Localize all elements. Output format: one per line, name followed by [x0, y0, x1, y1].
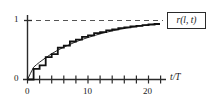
- legend-box: r(l, t): [167, 12, 206, 29]
- chart-figure: 1 0 0 10 20 t/T r(l, t): [0, 0, 215, 105]
- staircase-curve: [28, 24, 161, 80]
- x-tick-label-0: 0: [25, 87, 30, 96]
- legend-label: r(l, t): [176, 16, 196, 26]
- y-tick-label-0: 0: [14, 74, 19, 83]
- x-tick-label-20: 20: [143, 87, 152, 96]
- y-tick-label-1: 1: [14, 15, 19, 24]
- smooth-curve: [28, 24, 155, 79]
- x-axis-title: t/T: [170, 73, 181, 83]
- x-tick-label-10: 10: [83, 87, 92, 96]
